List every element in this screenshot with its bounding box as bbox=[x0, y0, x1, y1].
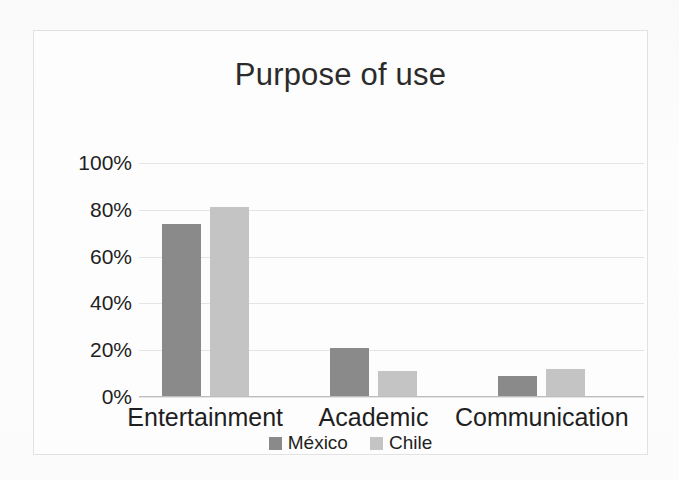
bar-entertainment-chile[interactable] bbox=[210, 207, 249, 397]
legend-item-chile[interactable]: Chile bbox=[370, 432, 432, 454]
y-tick-label: 80% bbox=[62, 198, 132, 222]
bar-communication-méxico[interactable] bbox=[498, 376, 537, 397]
legend-swatch-icon bbox=[370, 437, 383, 450]
chart-legend: MéxicoChile bbox=[34, 432, 647, 454]
bar-communication-chile[interactable] bbox=[546, 369, 585, 397]
y-tick-label: 100% bbox=[62, 151, 132, 175]
bar-entertainment-méxico[interactable] bbox=[162, 224, 201, 397]
gridline-0 bbox=[139, 397, 644, 398]
bar-academic-méxico[interactable] bbox=[330, 348, 369, 397]
category-axis-line bbox=[139, 396, 644, 397]
x-label-entertainment: Entertainment bbox=[127, 403, 283, 432]
legend-item-méxico[interactable]: México bbox=[269, 432, 348, 454]
y-tick-label: 20% bbox=[62, 338, 132, 362]
legend-label: México bbox=[288, 432, 348, 454]
bar-academic-chile[interactable] bbox=[378, 371, 417, 397]
x-label-communication: Communication bbox=[455, 403, 629, 432]
legend-label: Chile bbox=[389, 432, 432, 454]
chart-title: Purpose of use bbox=[34, 59, 647, 90]
chart-frame: Purpose of use 0%20%40%60%80%100% Entert… bbox=[33, 30, 648, 455]
gridline-100 bbox=[139, 163, 644, 164]
y-tick-label: 60% bbox=[62, 245, 132, 269]
x-label-academic: Academic bbox=[319, 403, 429, 432]
plot-area bbox=[139, 163, 644, 397]
legend-swatch-icon bbox=[269, 437, 282, 450]
y-axis: 0%20%40%60%80%100% bbox=[54, 163, 132, 397]
y-tick-label: 40% bbox=[62, 291, 132, 315]
x-axis-labels: EntertainmentAcademicCommunication bbox=[139, 403, 644, 433]
y-tick-label: 0% bbox=[62, 385, 132, 409]
chart-page: Purpose of use 0%20%40%60%80%100% Entert… bbox=[0, 0, 679, 480]
